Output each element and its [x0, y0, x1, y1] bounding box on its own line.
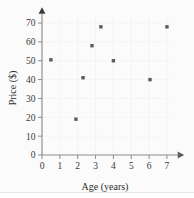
data-point: [49, 58, 52, 61]
data-point: [165, 25, 168, 28]
y-axis-ticks: 010203040506070: [26, 18, 42, 160]
data-point: [99, 25, 102, 28]
x-tick-label: 0: [40, 161, 45, 171]
y-tick-label: 70: [26, 18, 36, 28]
x-tick-label: 5: [129, 161, 134, 171]
scatter-plot-figure: 01234567 010203040506070 Age (years) Pri…: [0, 0, 194, 198]
x-tick-label: 1: [57, 161, 62, 171]
y-tick-label: 60: [26, 37, 36, 47]
data-point: [112, 59, 115, 62]
gridlines: [42, 14, 172, 155]
axes: [39, 7, 185, 158]
x-tick-label: 2: [75, 161, 80, 171]
y-tick-label: 50: [26, 56, 36, 66]
data-point: [74, 117, 77, 120]
x-tick-label: 7: [165, 161, 170, 171]
y-tick-label: 30: [26, 94, 36, 104]
data-points: [49, 25, 168, 121]
y-tick-label: 40: [26, 75, 36, 85]
x-axis-ticks: 01234567: [40, 155, 170, 171]
y-tick-label: 20: [26, 113, 36, 123]
data-point: [148, 78, 151, 81]
chart-canvas: 01234567 010203040506070 Age (years) Pri…: [0, 0, 194, 198]
data-point: [81, 76, 84, 79]
x-tick-label: 3: [93, 161, 98, 171]
figure-bottom-rule: [0, 192, 194, 198]
y-tick-label: 0: [31, 150, 36, 160]
y-axis-title: Price ($): [7, 71, 19, 106]
x-tick-label: 6: [147, 161, 152, 171]
x-tick-label: 4: [111, 161, 116, 171]
data-point: [90, 44, 93, 47]
y-tick-label: 10: [26, 132, 36, 142]
